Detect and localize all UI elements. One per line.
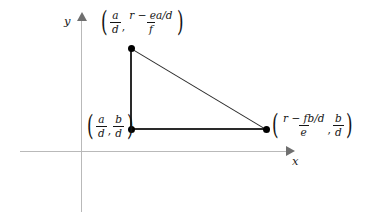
open-paren: (	[272, 114, 279, 136]
fraction-numerator: a	[110, 10, 120, 22]
coordinate-separator: ,	[121, 21, 127, 32]
close-paren: )	[346, 114, 353, 136]
coordinate-separator: ,	[107, 125, 113, 136]
fraction-numerator: a	[96, 114, 106, 126]
x-axis-line	[20, 151, 288, 152]
vertex-label-top: ( a d , r − ea/d f )	[99, 10, 186, 34]
close-paren: )	[127, 115, 134, 137]
coordinate-x-fraction: a d	[110, 10, 121, 34]
coordinate-y-fraction: b d	[333, 113, 344, 137]
fraction-numerator: r − ea/d	[127, 10, 174, 22]
close-paren: )	[177, 11, 184, 33]
y-axis-label: y	[64, 14, 71, 28]
fraction-denominator: d	[333, 125, 344, 138]
arrow-up-icon	[77, 12, 87, 21]
triangle-edge-bottom-leg	[131, 128, 266, 129]
coordinate-y-fraction: b d	[113, 114, 124, 138]
open-paren: (	[87, 115, 94, 137]
coordinate-x-fraction: a d	[96, 114, 107, 138]
coordinate-x-fraction: r − fb/d e	[281, 113, 326, 137]
vertex-point-bottom-right	[263, 126, 270, 133]
figure-canvas: x y ( a d , r − ea/d f ) ( a d , b d )	[0, 0, 369, 220]
coordinate-separator: ,	[327, 124, 333, 135]
fraction-denominator: d	[110, 22, 121, 35]
fraction-numerator: b	[113, 114, 124, 126]
vertex-label-bottom-left: ( a d , b d )	[85, 114, 135, 138]
y-axis-line	[81, 20, 82, 212]
fraction-denominator: e	[299, 125, 309, 138]
vertex-point-top	[128, 45, 135, 52]
triangle-edge-hypotenuse	[130, 48, 266, 130]
coordinate-y-fraction: r − ea/d f	[127, 10, 174, 34]
open-paren: (	[101, 11, 108, 33]
fraction-denominator: d	[96, 126, 107, 139]
fraction-numerator: b	[333, 113, 344, 125]
fraction-numerator: r − fb/d	[281, 113, 326, 125]
fraction-denominator: f	[147, 22, 155, 35]
fraction-denominator: d	[113, 126, 124, 139]
x-axis-label: x	[292, 154, 299, 168]
vertex-label-bottom-right: ( r − fb/d e , b d )	[270, 113, 355, 137]
